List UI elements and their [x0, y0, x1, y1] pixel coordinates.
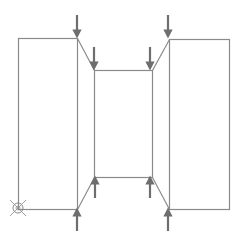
diagram-canvas [0, 0, 238, 240]
middle-block [95, 71, 153, 178]
blocks-group [19, 39, 230, 210]
bottom-left-bevel [78, 178, 95, 210]
left-block [19, 39, 78, 210]
force-arrows-group [77, 15, 168, 231]
bevel-lines-group [78, 39, 170, 210]
top-left-bevel [78, 39, 95, 71]
right-block [170, 40, 230, 210]
top-right-bevel [153, 40, 170, 71]
bottom-right-bevel [153, 178, 170, 210]
